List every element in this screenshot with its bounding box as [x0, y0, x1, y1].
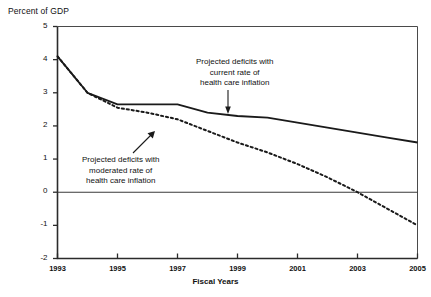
- chart-plot-area: [0, 0, 431, 297]
- y-tick-label: 1: [30, 153, 48, 162]
- y-tick-label: 0: [30, 186, 48, 195]
- annotation-current-rate: Projected deficits withcurrent rate ofhe…: [196, 57, 273, 89]
- y-tick-label: 2: [30, 120, 48, 129]
- annotation-line: current rate of: [196, 68, 273, 79]
- annotation-moderated-rate: Projected deficits withmoderated rate of…: [82, 155, 159, 187]
- x-tick-label: 1993: [38, 264, 78, 273]
- x-tick-label: 2005: [398, 264, 431, 273]
- y-tick-label: 3: [30, 87, 48, 96]
- x-tick-label: 2001: [278, 264, 318, 273]
- y-tick-label: 4: [30, 54, 48, 63]
- annotation-line: health care inflation: [82, 176, 159, 187]
- x-tick-label: 1997: [158, 264, 198, 273]
- x-axis-title: Fiscal Years: [0, 277, 431, 286]
- x-tick-label: 1995: [98, 264, 138, 273]
- x-tick-label: 2003: [338, 264, 378, 273]
- annotation-line: Projected deficits with: [196, 57, 273, 68]
- chart-figure: Percent of GDP 543210-1-2 19931995199719…: [0, 0, 431, 297]
- annotation-line: Projected deficits with: [82, 155, 159, 166]
- annotation-line: moderated rate of: [82, 166, 159, 177]
- y-tick-label: -1: [30, 219, 48, 228]
- y-tick-label: -2: [30, 253, 48, 262]
- y-tick-label: 5: [30, 21, 48, 30]
- x-tick-label: 1999: [218, 264, 258, 273]
- annotation-line: health care inflation: [196, 78, 273, 89]
